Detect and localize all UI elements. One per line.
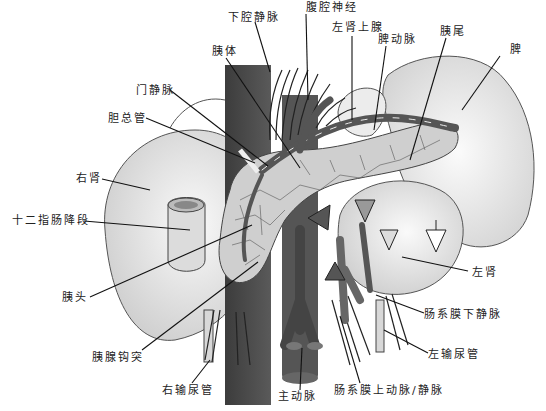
label-portal-vein: 门静脉 bbox=[136, 85, 175, 97]
label-ivc: 下腔静脉 bbox=[228, 12, 280, 24]
label-imv: 肠系膜下静脉 bbox=[424, 309, 502, 321]
label-pancreas-body: 胰体 bbox=[212, 46, 238, 58]
label-right-ureter: 右输尿管 bbox=[162, 385, 214, 397]
anatomy-diagram: 下腔静脉 腹腔神经 左肾上腺 脾动脉 胰尾 脾 胰体 门静脉 胆总管 右肾 十二… bbox=[0, 0, 546, 411]
left-ureter-shape bbox=[376, 300, 384, 352]
label-left-kidney: 左肾 bbox=[472, 267, 498, 279]
left-kidney-shape bbox=[338, 181, 463, 295]
label-celiac-nerve: 腹腔神经 bbox=[306, 2, 358, 14]
label-aorta: 主动脉 bbox=[278, 391, 317, 403]
label-left-ureter: 左输尿管 bbox=[428, 349, 480, 361]
label-pancreas-tail: 胰尾 bbox=[440, 26, 466, 38]
leader-right-ureter bbox=[192, 360, 210, 383]
leader-celiac-nerve bbox=[306, 14, 308, 100]
leader-sma-smv bbox=[340, 316, 360, 383]
label-common-bile-duct: 胆总管 bbox=[108, 113, 147, 125]
label-right-kidney: 右肾 bbox=[76, 173, 102, 185]
label-spleen: 脾 bbox=[510, 44, 523, 56]
label-splenic-artery: 脾动脉 bbox=[378, 34, 417, 46]
leader-left-ureter bbox=[384, 330, 428, 353]
label-duodenum: 十二指肠降段 bbox=[12, 215, 90, 227]
label-pancreas-head: 胰头 bbox=[62, 292, 88, 304]
label-sma-smv: 肠系膜上动脉/静脉 bbox=[334, 385, 444, 397]
label-uncinate: 胰腺钩突 bbox=[92, 352, 144, 364]
leader-ivc bbox=[255, 22, 270, 72]
right-ureter-shape bbox=[204, 310, 213, 362]
label-left-adrenal: 左肾上腺 bbox=[332, 22, 384, 34]
liver-edge bbox=[170, 99, 225, 128]
